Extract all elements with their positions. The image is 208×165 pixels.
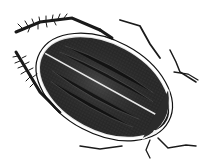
beetle-svg [0, 0, 208, 165]
beetle-illustration: Engraving of a diving water beetle, dors… [0, 0, 208, 165]
